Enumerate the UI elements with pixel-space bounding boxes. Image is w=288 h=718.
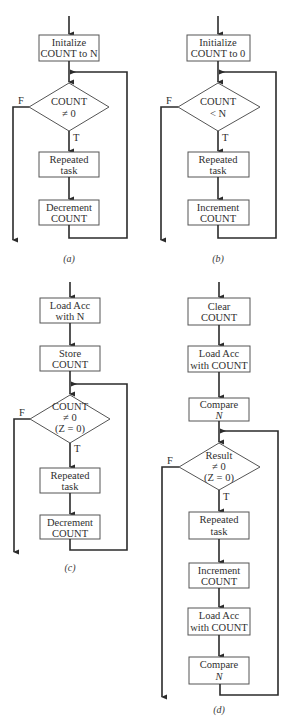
decision-count-less-than-n: COUNT < N bbox=[178, 83, 260, 131]
false-exit-arrow bbox=[162, 467, 179, 697]
step-label: Compare bbox=[200, 399, 239, 410]
true-label: T bbox=[74, 443, 81, 454]
false-exit-arrow bbox=[13, 107, 29, 240]
flowchart-b: Initialize COUNT to 0 COUNT < N F T Repe… bbox=[161, 16, 276, 265]
step-label: with COUNT bbox=[190, 622, 248, 633]
false-exit-arrow bbox=[14, 419, 30, 552]
step-label: COUNT bbox=[200, 213, 237, 224]
step-label: COUNT bbox=[51, 213, 88, 224]
false-label: F bbox=[19, 407, 25, 418]
step-label: task bbox=[62, 481, 80, 492]
step-label: COUNT to N bbox=[41, 48, 98, 59]
flowchart-figure: Initalize COUNT to N COUNT ≠ 0 F T Repea… bbox=[0, 0, 288, 718]
decision-label: < N bbox=[210, 108, 227, 119]
flowchart-d: Clear COUNT Load Acc with COUNT Compare … bbox=[162, 282, 278, 716]
step-label: Load Acc bbox=[50, 300, 91, 311]
step-label: Load Acc bbox=[199, 348, 240, 359]
true-label: T bbox=[223, 491, 230, 502]
decision-count-not-zero: COUNT ≠ 0 (Z = 0) bbox=[30, 395, 110, 443]
caption-a: (a) bbox=[63, 253, 75, 265]
caption-b: (b) bbox=[212, 253, 224, 265]
decision-label: Result bbox=[206, 450, 233, 461]
step-compare-n-2: Compare N bbox=[189, 657, 249, 684]
step-label: COUNT bbox=[52, 359, 89, 370]
step-label: with COUNT bbox=[190, 360, 248, 371]
step-label: Initalize bbox=[52, 37, 87, 48]
step-load-acc-with-count: Load Acc with COUNT bbox=[188, 346, 250, 372]
step-repeated-task: Repeated task bbox=[188, 152, 249, 177]
decision-result-not-zero: Result ≠ 0 (Z = 0) bbox=[179, 443, 260, 490]
step-repeated-task: Repeated task bbox=[39, 152, 99, 177]
decision-label: COUNT bbox=[51, 96, 88, 107]
step-label: Repeated bbox=[49, 154, 89, 165]
step-repeated-task: Repeated task bbox=[40, 468, 100, 493]
decision-label: (Z = 0) bbox=[204, 472, 234, 484]
step-label: Load Acc bbox=[199, 610, 240, 621]
step-decrement-count: Decrement COUNT bbox=[39, 200, 99, 225]
flowchart-a: Initalize COUNT to N COUNT ≠ 0 F T Repea… bbox=[13, 16, 127, 265]
step-label: N bbox=[214, 671, 223, 682]
decision-label: ≠ 0 bbox=[62, 108, 76, 119]
step-label: COUNT bbox=[201, 312, 238, 323]
true-label: T bbox=[73, 132, 80, 143]
decision-label: ≠ 0 bbox=[63, 412, 77, 423]
step-store-count: Store COUNT bbox=[40, 346, 100, 371]
true-label: T bbox=[222, 132, 229, 143]
step-label: COUNT to 0 bbox=[191, 48, 246, 59]
step-label: Repeated bbox=[50, 470, 90, 481]
false-label: F bbox=[18, 95, 24, 106]
caption-d: (d) bbox=[213, 704, 225, 716]
step-label: Compare bbox=[200, 659, 239, 670]
caption-c: (c) bbox=[64, 562, 76, 574]
decision-label: (Z = 0) bbox=[55, 423, 85, 435]
step-increment-count: Increment COUNT bbox=[189, 563, 249, 588]
step-label: COUNT bbox=[201, 576, 238, 587]
false-exit-arrow bbox=[161, 107, 178, 240]
step-increment-count: Increment COUNT bbox=[188, 200, 249, 225]
step-label: Clear bbox=[208, 301, 231, 312]
step-label: Decrement bbox=[47, 517, 93, 528]
decision-count-not-zero: COUNT ≠ 0 bbox=[29, 83, 109, 131]
decision-label: COUNT bbox=[52, 401, 89, 412]
flowchart-c: Load Acc with N Store COUNT COUNT ≠ 0 (Z… bbox=[14, 282, 127, 574]
false-label: F bbox=[166, 95, 172, 106]
decision-label: ≠ 0 bbox=[212, 461, 226, 472]
step-load-acc-with-count-2: Load Acc with COUNT bbox=[188, 608, 250, 635]
step-label: N bbox=[214, 410, 223, 421]
step-initialize-count: Initalize COUNT to N bbox=[39, 35, 99, 61]
step-compare-n: Compare N bbox=[189, 398, 249, 421]
step-load-acc-with-n: Load Acc with N bbox=[40, 298, 100, 323]
step-label: Increment bbox=[197, 202, 240, 213]
step-initialize-count: Initialize COUNT to 0 bbox=[187, 35, 250, 61]
step-decrement-count: Decrement COUNT bbox=[40, 515, 100, 539]
step-label: task bbox=[210, 165, 228, 176]
step-label: Repeated bbox=[199, 514, 239, 525]
step-label: COUNT bbox=[52, 528, 89, 539]
false-label: F bbox=[167, 455, 173, 466]
step-label: task bbox=[61, 165, 79, 176]
step-label: Store bbox=[59, 348, 82, 359]
step-label: Increment bbox=[198, 565, 241, 576]
step-repeated-task: Repeated task bbox=[189, 512, 249, 539]
step-label: task bbox=[211, 526, 229, 537]
step-label: Initialize bbox=[199, 37, 237, 48]
step-label: Decrement bbox=[46, 202, 92, 213]
step-label: with N bbox=[56, 311, 85, 322]
step-label: Repeated bbox=[198, 154, 238, 165]
step-clear-count: Clear COUNT bbox=[188, 298, 250, 325]
decision-label: COUNT bbox=[200, 96, 237, 107]
